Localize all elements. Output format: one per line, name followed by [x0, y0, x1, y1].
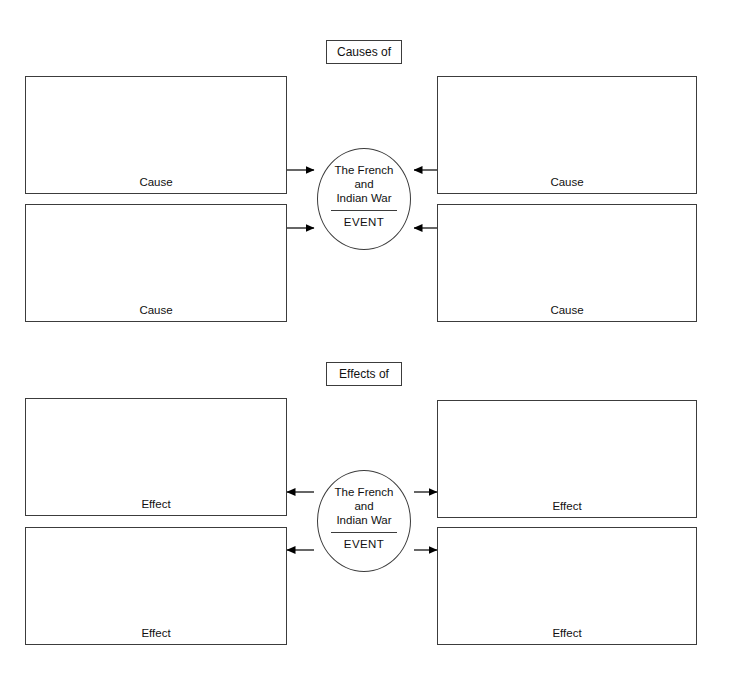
effect-box-bottom-right[interactable]: Effect — [437, 527, 697, 645]
effects-event-divider — [331, 532, 397, 533]
cause-box-bottom-right[interactable]: Cause — [437, 204, 697, 322]
effect-box-bottom-left[interactable]: Effect — [25, 527, 287, 645]
causes-event-title: The French and Indian War — [321, 163, 407, 205]
effect-box-top-left-label: Effect — [26, 498, 286, 511]
causes-event-circle[interactable]: The French and Indian War EVENT — [317, 148, 411, 250]
effect-box-top-right[interactable]: Effect — [437, 400, 697, 518]
cause-box-bottom-left-label: Cause — [26, 304, 286, 317]
cause-box-top-left-label: Cause — [26, 176, 286, 189]
effects-event-type-label: EVENT — [344, 537, 384, 551]
cause-box-top-left[interactable]: Cause — [25, 76, 287, 194]
effects-event-circle[interactable]: The French and Indian War EVENT — [317, 470, 411, 572]
causes-event-title-line-3: Indian War — [321, 191, 407, 205]
effects-event-title: The French and Indian War — [321, 485, 407, 527]
effects-header-label: Effects of — [339, 367, 389, 381]
cause-box-bottom-left[interactable]: Cause — [25, 204, 287, 322]
effect-box-bottom-left-label: Effect — [26, 627, 286, 640]
causes-event-type-label: EVENT — [344, 215, 384, 229]
cause-box-top-right[interactable]: Cause — [437, 76, 697, 194]
causes-section-header: Causes of — [326, 40, 402, 64]
effects-event-title-line-3: Indian War — [321, 513, 407, 527]
graphic-organizer-page: Causes of Cause Cause Cause Cause The Fr… — [0, 0, 730, 673]
causes-header-label: Causes of — [337, 45, 391, 59]
effects-event-title-line-1: The French — [321, 485, 407, 499]
causes-event-title-line-2: and — [321, 177, 407, 191]
effects-section-header: Effects of — [326, 362, 402, 386]
causes-event-divider — [331, 210, 397, 211]
effect-box-top-left[interactable]: Effect — [25, 398, 287, 516]
causes-event-title-line-1: The French — [321, 163, 407, 177]
cause-box-bottom-right-label: Cause — [438, 304, 696, 317]
effects-event-title-line-2: and — [321, 499, 407, 513]
cause-box-top-right-label: Cause — [438, 176, 696, 189]
effect-box-bottom-right-label: Effect — [438, 627, 696, 640]
effect-box-top-right-label: Effect — [438, 500, 696, 513]
